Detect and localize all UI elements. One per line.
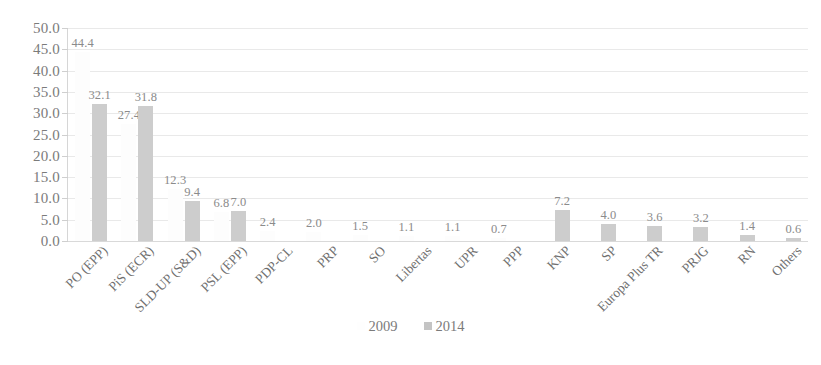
gridline [68, 156, 808, 157]
x-axis-label-upr: UPR [452, 243, 482, 273]
data-label: 0.7 [491, 223, 507, 236]
y-axis-tick [62, 49, 68, 50]
x-axis-label-knp: KNP [544, 243, 574, 273]
x-axis-label-sp: SP [598, 243, 620, 265]
x-axis-label-so: SO [365, 243, 389, 267]
data-label: 32.1 [88, 89, 110, 102]
y-axis-tick [62, 71, 68, 72]
bar-2009-prp [306, 232, 321, 241]
gridline [68, 71, 808, 72]
y-axis-tick [62, 220, 68, 221]
data-label: 1.1 [445, 221, 461, 234]
y-axis-labels: 50.045.040.035.030.025.020.015.010.05.00… [14, 28, 60, 241]
y-axis-tick [62, 177, 68, 178]
gridline [68, 241, 808, 242]
y-axis-tick [62, 135, 68, 136]
data-label: 6.8 [213, 197, 229, 210]
data-label: 1.4 [739, 220, 755, 233]
gridline [68, 49, 808, 50]
gridline [68, 92, 808, 93]
bar-2014-sp [601, 224, 616, 241]
y-axis-tick-label: 30.0 [18, 106, 60, 121]
x-axis-label-prjg: PRJG [679, 243, 713, 277]
x-axis-label-libertas: Libertas [393, 243, 436, 286]
y-axis-tick-label: 5.0 [18, 213, 60, 228]
bar-2014-po-epp- [92, 104, 107, 241]
x-axis-label-text: SP [598, 243, 620, 265]
y-axis-tick [62, 156, 68, 157]
data-label: 7.0 [230, 196, 246, 209]
bar-2009-po-epp- [75, 52, 90, 241]
bar-2014-knp [555, 210, 570, 241]
x-axis-label-po-epp-: PO (EPP) [63, 243, 112, 292]
x-axis-label-text: UPR [452, 243, 482, 273]
y-axis-tick-label: 45.0 [18, 42, 60, 57]
x-axis-labels: PO (EPP)PiS (ECR)SLD-UP (S&D)PSL (EPP)PD… [68, 243, 808, 313]
data-label: 2.4 [260, 216, 276, 229]
data-label: 2.0 [306, 217, 322, 230]
y-axis-tick-label: 10.0 [18, 191, 60, 206]
gridline [68, 28, 808, 29]
y-axis-tick [62, 113, 68, 114]
bar-2009-sld-up-s-d- [168, 189, 183, 241]
x-axis-label-text: PPP [500, 243, 527, 270]
data-label: 7.2 [554, 195, 570, 208]
x-axis-label-text: SO [365, 243, 389, 267]
bar-2014-europa-plus-tr [647, 226, 662, 241]
data-label: 44.4 [71, 37, 93, 50]
legend-item-2014[interactable]: 2014 [424, 318, 465, 335]
y-axis-tick-label: 50.0 [18, 21, 60, 36]
x-axis-label-psl-epp-: PSL (EPP) [198, 243, 251, 296]
bar-2014-prjg [693, 227, 708, 241]
x-axis-label-ppp: PPP [500, 243, 527, 270]
x-axis-label-others: Others [768, 243, 805, 280]
data-label: 1.1 [398, 221, 414, 234]
bar-2009-psl-epp- [214, 212, 229, 241]
bar-2009-ppp [491, 238, 506, 241]
x-axis-label-text: PO (EPP) [63, 243, 112, 292]
y-axis-tick-label: 25.0 [18, 128, 60, 143]
legend-item-2009[interactable]: 2009 [357, 318, 398, 335]
y-axis-tick-label: 0.0 [18, 234, 60, 249]
bar-2014-others [786, 238, 801, 241]
bar-2009-so [353, 235, 368, 241]
data-label: 1.5 [352, 220, 368, 233]
x-axis-label-text: Others [768, 243, 805, 280]
square-swatch-2014 [424, 322, 432, 330]
bar-2009-pdp-cl [260, 231, 275, 241]
data-label: 3.6 [647, 211, 663, 224]
data-label: 0.6 [785, 223, 801, 236]
y-axis-tick-label: 20.0 [18, 149, 60, 164]
plot-area: 44.432.127.431.812.39.46.87.02.42.01.51.… [68, 28, 808, 241]
y-axis-tick-label: 15.0 [18, 170, 60, 185]
x-axis-label-text: PDP-CL [252, 243, 296, 287]
data-label: 3.2 [693, 212, 709, 225]
x-axis-label-pdp-cl: PDP-CL [252, 243, 296, 287]
x-axis-label-text: Libertas [393, 243, 436, 286]
y-axis-tick-label: 40.0 [18, 64, 60, 79]
y-axis-tick [62, 28, 68, 29]
data-label: 4.0 [600, 209, 616, 222]
gridline [68, 135, 808, 136]
y-axis-tick-label: 35.0 [18, 85, 60, 100]
bar-chart: 50.045.040.035.030.025.020.015.010.05.00… [0, 0, 821, 365]
x-axis-label-rn: RN [734, 243, 759, 268]
square-swatch-2009 [357, 322, 365, 330]
x-axis-label-text: PSL (EPP) [198, 243, 251, 296]
x-axis-label-text: KNP [544, 243, 574, 273]
x-axis-label-text: RN [734, 243, 759, 268]
x-axis-label-prp: PRP [314, 243, 342, 271]
data-label: 31.8 [135, 91, 157, 104]
x-axis-label-text: PRP [314, 243, 342, 271]
bar-2014-pis-ecr- [138, 106, 153, 241]
y-axis-tick [62, 241, 68, 242]
legend-label: 2014 [436, 318, 465, 335]
bar-2014-rn [740, 235, 755, 241]
bar-2009-upr [445, 236, 460, 241]
data-label: 9.4 [184, 186, 200, 199]
chart-legend: 20092014 [0, 318, 821, 335]
y-axis-tick [62, 92, 68, 93]
gridline [68, 113, 808, 114]
bar-2014-psl-epp- [231, 211, 246, 241]
legend-label: 2009 [369, 318, 398, 335]
